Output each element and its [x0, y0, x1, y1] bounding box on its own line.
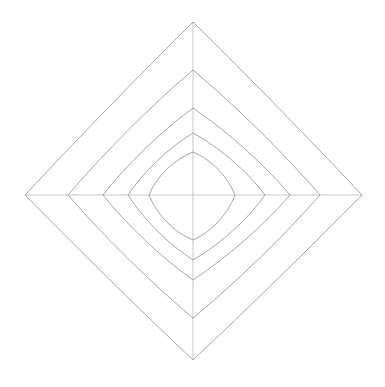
series-polygon-1 — [25, 22, 362, 360]
series-polygons-group — [25, 22, 362, 360]
series-polygon-3 — [103, 108, 290, 280]
axis-lines-group — [25, 22, 362, 360]
series-polygon-4 — [128, 133, 265, 260]
series-polygon-2 — [68, 70, 320, 318]
radar-chart-svg — [0, 0, 385, 387]
radar-chart-container — [0, 0, 385, 387]
series-polygon-5 — [149, 152, 235, 240]
